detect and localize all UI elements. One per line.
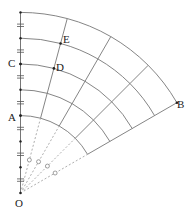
arc — [21, 116, 88, 155]
label-e: E — [63, 33, 70, 45]
label-o: O — [15, 197, 23, 209]
concentric-arcs — [21, 12, 177, 154]
label-c: C — [8, 57, 15, 69]
point-dots — [19, 11, 178, 194]
dashed-radial-lines — [22, 118, 88, 191]
label-b: B — [177, 98, 184, 110]
sector-diagram: A C D E B O — [0, 0, 191, 220]
label-d: D — [56, 61, 64, 73]
label-a: A — [8, 111, 16, 123]
